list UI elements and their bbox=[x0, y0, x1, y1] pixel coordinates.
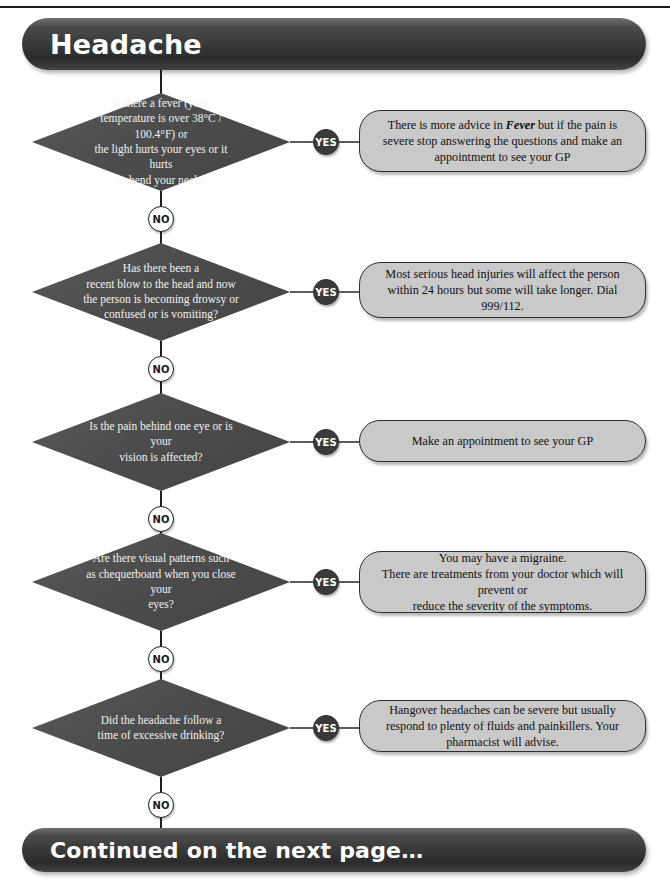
connector-step3-yes-left bbox=[290, 441, 313, 443]
flowchart-page: Headache Is there a fever (your temperat… bbox=[0, 0, 670, 887]
decision-question-2: Has there been a recent blow to the head… bbox=[32, 243, 290, 341]
connector-step1-no-upper bbox=[160, 191, 162, 206]
badge-yes-3[interactable]: YES bbox=[313, 429, 339, 455]
connector-step4-yes-left bbox=[290, 581, 313, 583]
answer-text-2: Most serious head injuries will affect t… bbox=[374, 266, 631, 315]
connector-step4-yes-right bbox=[339, 581, 360, 583]
decision-diamond-5[interactable]: Did the headache follow a time of excess… bbox=[32, 679, 290, 777]
decision-diamond-4[interactable]: Are there visual patterns such as cheque… bbox=[32, 533, 290, 631]
badge-no-3[interactable]: NO bbox=[148, 506, 174, 532]
answer-text-4: You may have a migraine.There are treatm… bbox=[374, 550, 631, 615]
answer-text-1: There is more advice in Fever but if the… bbox=[374, 117, 631, 166]
connector-step2-yes-left bbox=[290, 291, 313, 293]
page-top-rule bbox=[0, 6, 670, 8]
connector-step5-yes-right bbox=[339, 727, 360, 729]
answer-box-5[interactable]: Hangover headaches can be severe but usu… bbox=[359, 700, 646, 752]
decision-diamond-2[interactable]: Has there been a recent blow to the head… bbox=[32, 243, 290, 341]
answer-text-3: Make an appointment to see your GP bbox=[412, 433, 593, 449]
badge-yes-4[interactable]: YES bbox=[313, 569, 339, 595]
footer-continued-banner: Continued on the next page… bbox=[22, 828, 646, 872]
connector-title-to-step1 bbox=[160, 70, 162, 94]
badge-yes-2[interactable]: YES bbox=[313, 279, 339, 305]
connector-step4-no-upper bbox=[160, 631, 162, 646]
badge-no-1[interactable]: NO bbox=[148, 206, 174, 232]
connector-step1-yes-left bbox=[290, 141, 313, 143]
answer-box-2[interactable]: Most serious head injuries will affect t… bbox=[359, 262, 646, 318]
connector-step1-yes-right bbox=[339, 141, 360, 143]
connector-step5-no-upper bbox=[160, 777, 162, 792]
decision-question-4: Are there visual patterns such as cheque… bbox=[32, 533, 290, 631]
connector-step5-yes-left bbox=[290, 727, 313, 729]
answer-box-1[interactable]: There is more advice in Fever but if the… bbox=[359, 110, 646, 172]
badge-no-5[interactable]: NO bbox=[148, 792, 174, 818]
badge-yes-1[interactable]: YES bbox=[313, 129, 339, 155]
decision-question-5: Did the headache follow a time of excess… bbox=[32, 679, 290, 777]
page-title-banner: Headache bbox=[22, 18, 646, 70]
decision-question-1: Is there a fever (your temperature is ov… bbox=[32, 93, 290, 191]
badge-no-2[interactable]: NO bbox=[148, 356, 174, 382]
answer-box-3[interactable]: Make an appointment to see your GP bbox=[359, 420, 646, 462]
badge-yes-5[interactable]: YES bbox=[313, 715, 339, 741]
connector-step3-no-upper bbox=[160, 491, 162, 506]
decision-question-3: Is the pain behind one eye or is your vi… bbox=[32, 393, 290, 491]
badge-no-4[interactable]: NO bbox=[148, 646, 174, 672]
connector-step2-yes-right bbox=[339, 291, 360, 293]
decision-diamond-1[interactable]: Is there a fever (your temperature is ov… bbox=[32, 93, 290, 191]
connector-step3-yes-right bbox=[339, 441, 360, 443]
footer-text: Continued on the next page… bbox=[22, 838, 423, 863]
page-title: Headache bbox=[22, 29, 202, 60]
connector-step2-no-upper bbox=[160, 341, 162, 356]
answer-box-4[interactable]: You may have a migraine.There are treatm… bbox=[359, 551, 646, 613]
decision-diamond-3[interactable]: Is the pain behind one eye or is your vi… bbox=[32, 393, 290, 491]
answer-text-5: Hangover headaches can be severe but usu… bbox=[374, 702, 631, 751]
